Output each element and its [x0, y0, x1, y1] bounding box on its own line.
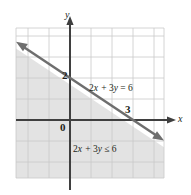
equation-text-relation: = — [120, 83, 125, 93]
coordinate-plane-svg — [0, 0, 191, 195]
equation-text-var-x: x — [94, 83, 98, 93]
inequality-text-var-y: y — [98, 144, 102, 154]
graph-figure: 2 3 0 x y 2x + 3y = 6 2x + 3y ≤ 6 — [0, 0, 191, 195]
equation-text-rhs: 6 — [128, 83, 133, 93]
origin-label: 0 — [60, 122, 66, 133]
equation-label: 2x + 3y = 6 — [89, 84, 133, 94]
y-axis-label: y — [65, 10, 69, 20]
inequality-text-rhs: 6 — [112, 144, 117, 154]
inequality-text-relation: ≤ — [104, 144, 109, 154]
inequality-text-plus: + — [85, 144, 90, 154]
equation-text-var-y: y — [114, 83, 118, 93]
y-intercept-label: 2 — [62, 70, 68, 81]
equation-text-plus: + — [101, 83, 106, 93]
x-axis-arrowhead — [167, 116, 176, 123]
inequality-label: 2x + 3y ≤ 6 — [73, 145, 117, 155]
x-axis-label: x — [178, 114, 182, 124]
x-intercept-label: 3 — [125, 104, 131, 115]
inequality-text-var-x: x — [78, 144, 82, 154]
